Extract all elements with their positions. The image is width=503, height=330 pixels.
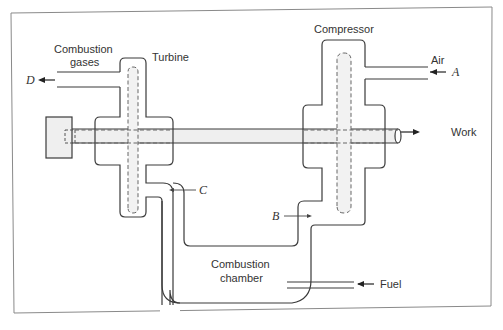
arrow-work-out-icon: [401, 129, 420, 135]
load-box: [46, 117, 72, 158]
turbine: [75, 58, 173, 310]
point-c-label: C: [199, 183, 208, 197]
combustion-chamber-label-line2: chamber: [220, 272, 263, 284]
point-d-label: D: [25, 73, 35, 87]
arrow-air-in-icon: [430, 69, 446, 75]
air-label: Air: [431, 54, 445, 66]
point-b-label: B: [272, 209, 280, 223]
fuel-label: Fuel: [380, 278, 401, 290]
arrow-fuel-in-icon: [357, 281, 374, 287]
compressor-label: Compressor: [314, 23, 374, 35]
compressor: [170, 40, 398, 310]
work-label: Work: [451, 126, 477, 138]
combustion-chamber-label-line1: Combustion: [211, 258, 270, 270]
exhaust-label-line1: Combustion: [54, 43, 113, 55]
shaft-end-icon: [395, 129, 401, 143]
point-a-label: A: [451, 65, 460, 79]
exhaust-label-line2: gases: [70, 56, 100, 68]
gas-turbine-diagram: Combustion gases Turbine Compressor Air …: [0, 0, 503, 330]
turbine-label: Turbine: [152, 51, 189, 63]
arrow-exhaust-out-icon: [38, 77, 55, 83]
arrow-c-icon: [169, 188, 196, 192]
compressor-rotor-dashed: [337, 53, 351, 213]
turbine-rotor-dashed: [128, 67, 138, 213]
